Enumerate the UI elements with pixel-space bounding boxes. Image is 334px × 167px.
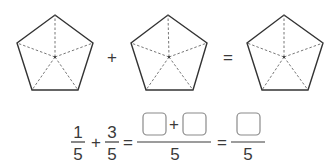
term2-numerator: 3	[107, 123, 116, 142]
result-denominator: 5	[243, 145, 252, 164]
answer-box-3[interactable]	[237, 113, 260, 135]
pentagon-right	[247, 15, 323, 90]
numerator-plus-sign: +	[169, 115, 179, 134]
plus-operator: +	[107, 48, 117, 67]
pentagon-left	[17, 15, 93, 90]
fraction-addition-diagram: + = 1 5 + 3 5	[0, 0, 334, 167]
equals-operator: =	[223, 48, 233, 67]
equation: 1 5 + 3 5 = + 5 = 5	[71, 113, 265, 164]
term1-denominator: 5	[73, 145, 82, 164]
pentagon-middle	[131, 15, 207, 90]
answer-box-1[interactable]	[143, 113, 166, 135]
combined-denominator: 5	[170, 145, 179, 164]
plus-sign: +	[91, 133, 101, 152]
term1-numerator: 1	[73, 123, 82, 142]
term2-denominator: 5	[107, 145, 116, 164]
answer-box-2[interactable]	[183, 113, 206, 135]
equals-sign-2: =	[217, 133, 227, 152]
equals-sign-1: =	[123, 133, 133, 152]
